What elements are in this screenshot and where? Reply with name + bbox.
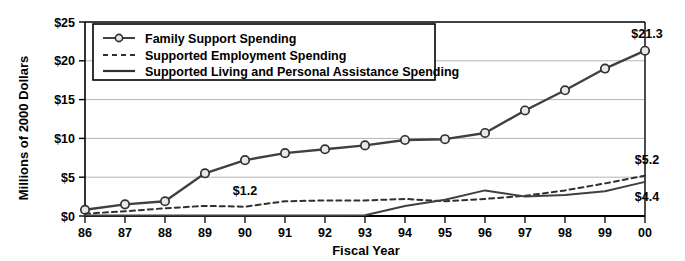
data-label: $21.3 [631,27,662,41]
data-point-marker [441,135,449,143]
legend-label: Family Support Spending [145,32,296,46]
data-point-marker [121,200,129,208]
data-point-marker [641,47,649,55]
data-point-marker [201,169,209,177]
data-label: $5.2 [635,153,659,167]
chart-container: $0$5$10$15$20$25 86878889909192939495969… [0,0,685,261]
data-point-marker [161,197,169,205]
data-point-marker [481,129,489,137]
x-tick-label: 95 [438,226,452,240]
x-tick-label: 99 [598,226,612,240]
chart-legend: Family Support Spending Supported Employ… [93,24,459,80]
x-axis-tick-labels: 868788899091929394959697989900 [78,226,652,240]
legend-label: Supported Living and Personal Assistance… [145,65,459,79]
line-chart: $0$5$10$15$20$25 86878889909192939495969… [0,0,685,261]
y-axis-title: Millions of 2000 Dollars [16,56,31,201]
x-tick-label: 98 [558,226,572,240]
y-tick-label: $15 [54,93,75,107]
x-tick-label: 00 [638,226,652,240]
x-tick-label: 87 [118,226,132,240]
data-point-marker [241,156,249,164]
data-point-marker [601,64,609,72]
y-tick-label: $10 [54,132,75,146]
y-tick-label: $0 [61,210,75,224]
data-point-marker [561,86,569,94]
legend-label: Supported Employment Spending [145,49,346,63]
y-tick-label: $20 [54,54,75,68]
circle-marker-icon [115,34,122,41]
y-tick-label: $25 [54,16,75,30]
x-axis-title: Fiscal Year [332,243,400,258]
legend-item-supported-living: Supported Living and Personal Assistance… [103,65,459,79]
data-label: $1.2 [233,184,257,198]
data-point-marker [521,106,529,114]
data-point-marker [321,145,329,153]
x-tick-label: 92 [318,226,332,240]
x-tick-label: 93 [358,226,372,240]
x-tick-label: 86 [78,226,92,240]
x-tick-label: 90 [238,226,252,240]
x-tick-label: 97 [518,226,532,240]
x-tick-label: 89 [198,226,212,240]
data-point-marker [401,136,409,144]
data-label: $4.4 [635,190,659,204]
y-tick-label: $5 [61,171,75,185]
x-tick-label: 96 [478,226,492,240]
x-tick-label: 94 [398,226,412,240]
data-point-marker [281,149,289,157]
x-tick-label: 88 [158,226,172,240]
data-point-marker [361,141,369,149]
x-tick-label: 91 [278,226,292,240]
